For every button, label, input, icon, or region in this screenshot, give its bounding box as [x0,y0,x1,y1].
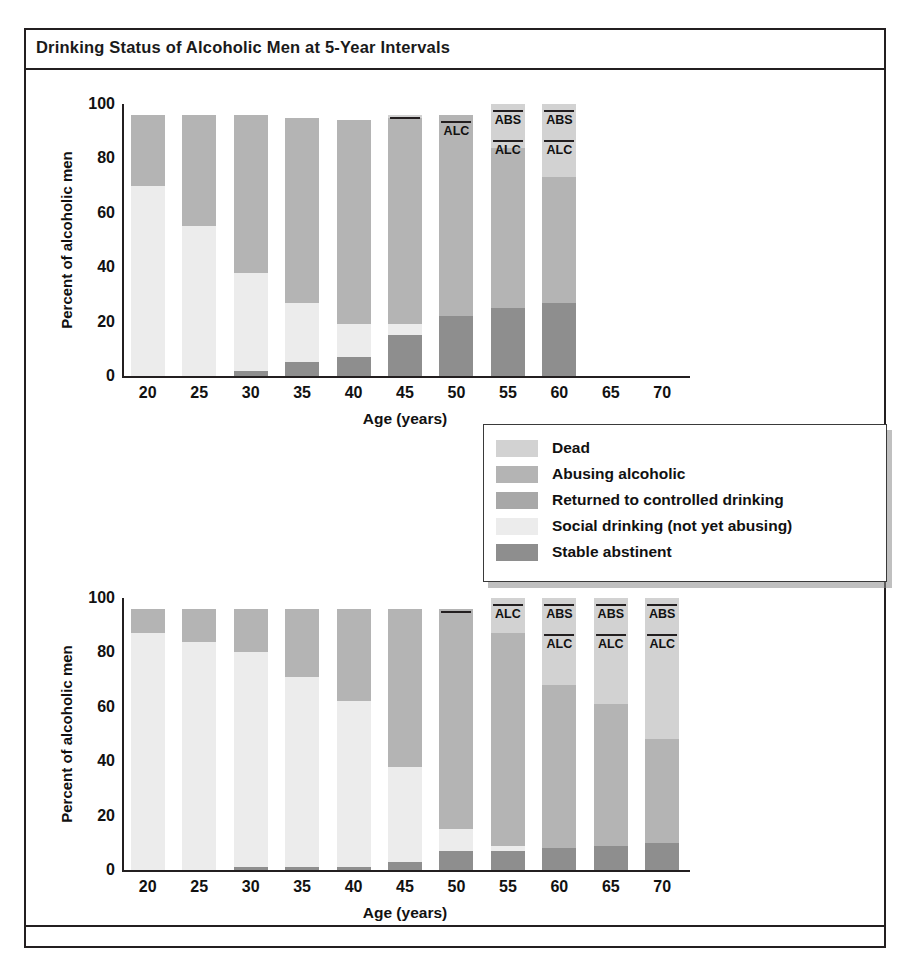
bar-segment-abusing-alcoholic [542,685,576,848]
x-tick-bottom-60: 60 [550,878,568,896]
bar-segment-abusing-alcoholic [337,609,371,701]
bar-segment-abusing-alcoholic [542,177,576,302]
figure-page: Drinking Status of Alcoholic Men at 5-Ye… [0,0,915,969]
annotation-label: ALC [495,143,521,157]
title-divider [26,68,884,70]
bar-segment-abusing-alcoholic [182,115,216,227]
legend-label: Social drinking (not yet abusing) [552,517,792,535]
y-tick-bottom-0: 0 [106,861,115,879]
bar-segment-abusing-alcoholic [337,120,371,324]
bar-segment-abusing-alcoholic [594,704,628,845]
bar-segment-stable-abstinent [645,843,679,870]
y-tick-top-40: 40 [97,258,115,276]
annotation-rule [544,604,574,606]
bar-segment-stable-abstinent [388,862,422,870]
chart-top: Percent of alcoholic men0204060801002025… [122,104,688,376]
bar-segment-abusing-alcoholic [491,148,525,308]
bar-annotation-abs-top-age-60: ABS [544,110,574,127]
x-tick-top-45: 45 [396,384,414,402]
figure-title: Drinking Status of Alcoholic Men at 5-Ye… [36,38,736,64]
bar-segment-abusing-alcoholic [439,609,473,829]
annotation-label: ALC [495,607,521,621]
bar-segment-social-drinking [182,642,216,870]
bar-segment-stable-abstinent [337,357,371,376]
y-tick-top-100: 100 [88,95,115,113]
annotation-label: ALC [547,143,573,157]
bar-segment-stable-abstinent [491,308,525,376]
legend-label: Dead [552,439,590,457]
bar-segment-stable-abstinent [337,867,371,870]
bar-segment-abusing-alcoholic [131,115,165,186]
bar-top-age-20 [131,115,165,376]
y-tick-bottom-80: 80 [97,643,115,661]
annotation-label: ALC [649,637,675,651]
bar-segment-social-drinking [285,677,319,867]
bar-top-age-35 [285,118,319,376]
bar-segment-abusing-alcoholic [491,633,525,845]
bar-annotation-alc-bottom-age-55: ALC [493,604,523,621]
bar-segment-stable-abstinent [285,867,319,870]
bar-segment-stable-abstinent [542,848,576,870]
legend-swatch-abusing-alcoholic [496,466,538,483]
bar-segment-stable-abstinent [234,371,268,376]
bar-top-age-40 [337,120,371,376]
x-tick-top-20: 20 [139,384,157,402]
bar-bottom-age-50 [439,609,473,870]
x-tick-bottom-30: 30 [242,878,260,896]
y-axis-label-bottom: Percent of alcoholic men [58,598,75,870]
bar-annotation-rule-top-age-45 [390,117,420,121]
chart-bottom: Percent of alcoholic men0204060801002025… [122,598,688,870]
bar-segment-social-drinking [388,324,422,335]
x-tick-bottom-40: 40 [345,878,363,896]
bar-segment-abusing-alcoholic [388,118,422,325]
bar-annotation-alc-bottom-age-60: ALC [544,634,574,651]
bar-segment-abusing-alcoholic [182,609,216,642]
bar-top-age-50 [439,115,473,376]
annotation-rule [441,121,471,123]
bar-segment-abusing-alcoholic [439,115,473,316]
bar-top-age-25 [182,115,216,376]
bar-bottom-age-35 [285,609,319,870]
y-tick-bottom-60: 60 [97,698,115,716]
bar-annotation-alc-top-age-60: ALC [544,140,574,157]
bar-segment-social-drinking [234,273,268,371]
bar-annotation-abs-bottom-age-65: ABS [596,604,626,621]
x-tick-top-25: 25 [190,384,208,402]
footer-divider [26,925,884,927]
annotation-rule [441,611,471,613]
annotation-rule [544,110,574,112]
x-tick-bottom-25: 25 [190,878,208,896]
bar-annotation-abs-bottom-age-70: ABS [647,604,677,621]
chart-legend: DeadAbusing alcoholicReturned to control… [483,424,887,582]
legend-label: Returned to controlled drinking [552,491,784,509]
bar-segment-stable-abstinent [439,851,473,870]
annotation-rule [544,634,574,636]
x-tick-bottom-45: 45 [396,878,414,896]
bar-segment-stable-abstinent [439,316,473,376]
bar-segment-abusing-alcoholic [645,739,679,842]
x-tick-bottom-65: 65 [602,878,620,896]
bar-segment-social-drinking [439,829,473,851]
annotation-label: ALC [598,637,624,651]
x-tick-bottom-35: 35 [293,878,311,896]
annotation-rule [390,117,420,119]
x-tick-bottom-55: 55 [499,878,517,896]
legend-item: Social drinking (not yet abusing) [496,513,870,539]
bar-segment-abusing-alcoholic [285,118,319,303]
bar-annotation-alc-bottom-age-70: ALC [647,634,677,651]
annotation-rule [596,634,626,636]
x-tick-top-35: 35 [293,384,311,402]
legend-swatch-returned-controlled [496,492,538,509]
bar-segment-abusing-alcoholic [131,609,165,633]
annotation-label: ALC [444,124,470,138]
annotation-label: ABS [546,113,572,127]
y-tick-top-80: 80 [97,149,115,167]
legend-item: Dead [496,435,870,461]
x-tick-top-70: 70 [653,384,671,402]
annotation-rule [647,634,677,636]
legend-swatch-dead [496,440,538,457]
bar-segment-stable-abstinent [388,335,422,376]
bar-segment-abusing-alcoholic [234,115,268,273]
x-tick-bottom-50: 50 [448,878,466,896]
legend-item: Stable abstinent [496,539,870,565]
